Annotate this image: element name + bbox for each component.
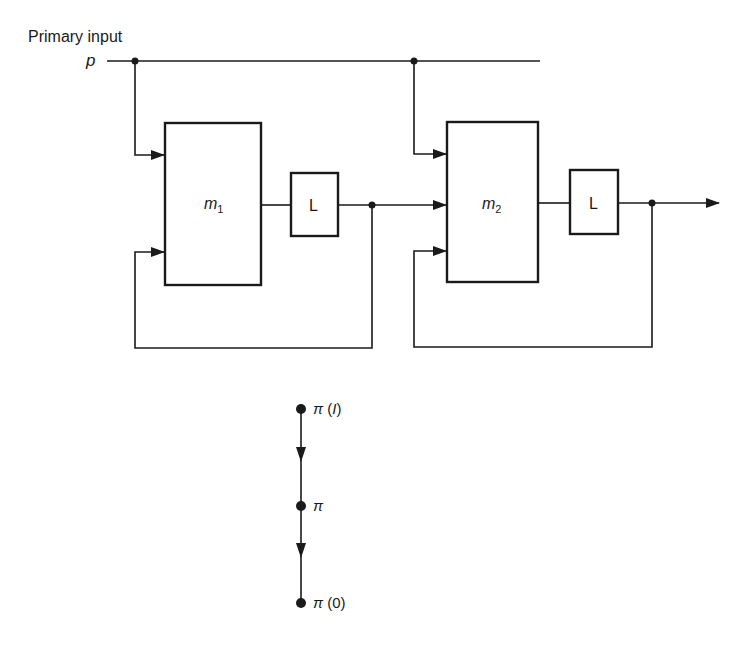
- chain-arrow-1-icon: [296, 447, 306, 462]
- latch-1-label: L: [309, 197, 318, 214]
- input-symbol: p: [85, 51, 95, 70]
- machine-m2-label: m2: [482, 195, 501, 215]
- m2-feedback-wire: [414, 203, 652, 347]
- machine-m1-label: m1: [204, 195, 223, 215]
- primary-input-label: Primary input: [28, 28, 123, 45]
- m1-feedback-wire: [135, 205, 372, 348]
- circuit-diagram: Primary input p m1 L m2 L π (I) π π (0): [0, 0, 756, 646]
- junction-dot-icon: [132, 58, 139, 65]
- chain-node-dot-icon: [296, 404, 306, 414]
- junction-dot-icon: [649, 200, 656, 207]
- junction-dot-icon: [369, 202, 376, 209]
- m2-top-input-wire: [414, 61, 446, 154]
- chain-node-dot-icon: [296, 598, 306, 608]
- latch-2-label: L: [589, 195, 598, 212]
- chain-node-1-label: π (I): [313, 400, 341, 417]
- chain-node-dot-icon: [296, 501, 306, 511]
- chain-arrow-2-icon: [296, 543, 306, 558]
- junction-dot-icon: [411, 58, 418, 65]
- chain-node-3-label: π (0): [313, 594, 346, 611]
- m1-top-input-wire: [135, 61, 164, 155]
- chain-node-2-label: π: [313, 497, 324, 514]
